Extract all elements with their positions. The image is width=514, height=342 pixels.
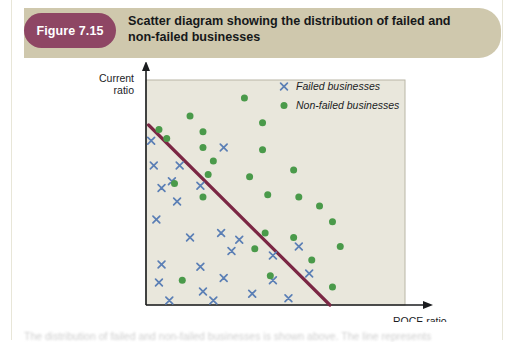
data-point-marker <box>246 173 253 180</box>
data-point-marker <box>290 167 297 174</box>
data-point-marker <box>329 284 336 291</box>
x-axis-label: ROCE ratio <box>393 315 447 322</box>
page-caption-text: The distribution of failed and non-faile… <box>24 330 484 342</box>
data-point-marker <box>295 194 302 201</box>
scatter-chart: CurrentratioROCE ratioFailed businessesN… <box>0 62 514 322</box>
data-point-marker <box>171 180 178 187</box>
legend-marker-circle-icon <box>281 102 288 109</box>
figure-number-badge: Figure 7.15 <box>24 13 116 48</box>
data-point-marker <box>155 126 162 133</box>
data-point-marker <box>163 135 170 142</box>
figure-number-label: Figure 7.15 <box>36 24 103 38</box>
data-point-marker <box>210 158 217 165</box>
scatter-chart-svg: CurrentratioROCE ratioFailed businessesN… <box>0 62 514 322</box>
x-axis-arrowhead <box>423 301 433 309</box>
data-point-marker <box>337 243 344 250</box>
data-point-marker <box>199 144 206 151</box>
plot-area-background <box>146 80 405 305</box>
figure-title: Scatter diagram showing the distribution… <box>128 14 458 45</box>
legend-entry-label: Non-failed businesses <box>296 99 400 111</box>
y-axis-label: ratio <box>114 84 135 96</box>
data-point-marker <box>251 245 258 252</box>
y-axis-label: Current <box>99 72 134 84</box>
y-axis-arrowhead <box>142 62 150 71</box>
data-point-marker <box>199 128 206 135</box>
data-point-marker <box>205 171 212 178</box>
data-point-marker <box>259 146 266 153</box>
data-point-marker <box>267 272 274 279</box>
legend-entry-label: Failed businesses <box>296 80 381 92</box>
data-point-marker <box>187 113 194 120</box>
data-point-marker <box>179 277 186 284</box>
data-point-marker <box>199 194 206 201</box>
data-point-marker <box>264 191 271 198</box>
data-point-marker <box>290 234 297 241</box>
data-point-marker <box>316 203 323 210</box>
data-point-marker <box>259 119 266 126</box>
data-point-marker <box>262 230 269 237</box>
data-point-marker <box>329 218 336 225</box>
data-point-marker <box>241 95 248 102</box>
data-point-marker <box>308 257 315 264</box>
